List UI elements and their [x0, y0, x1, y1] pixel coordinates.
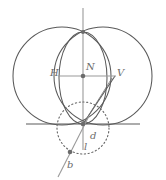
label-N: N: [86, 62, 95, 72]
diagram-canvas: [0, 0, 166, 180]
label-V: V: [117, 68, 124, 78]
label-d: d: [90, 131, 96, 141]
point-bottom-intersection: [81, 122, 86, 127]
point-N-center: [81, 74, 86, 79]
point-top-intersection: [81, 30, 85, 34]
geometric-diagram: H N V d l b: [0, 0, 166, 180]
label-H: H: [50, 68, 59, 78]
label-l: l: [84, 142, 87, 152]
label-b: b: [67, 160, 73, 170]
point-b: [68, 150, 73, 155]
